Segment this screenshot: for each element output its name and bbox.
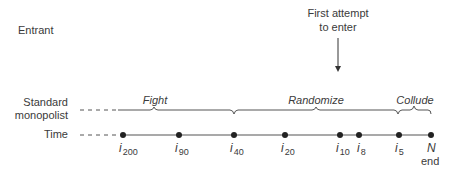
tick-label-i90: i90 bbox=[175, 141, 189, 157]
point-i200 bbox=[120, 132, 126, 138]
point-i10 bbox=[337, 132, 343, 138]
annotation-line1: First attempt bbox=[283, 7, 393, 20]
fight-brace bbox=[118, 107, 234, 114]
tick-label-i10: i10 bbox=[336, 141, 350, 157]
tick-label-i5: i5 bbox=[395, 141, 404, 157]
phase-label-randomize: Randomize bbox=[280, 94, 352, 107]
phase-label-collude: Collude bbox=[390, 94, 440, 107]
tick-label-i20: i20 bbox=[281, 141, 295, 157]
randomize-brace bbox=[234, 107, 398, 114]
entrant-label: Entrant bbox=[18, 24, 53, 37]
tick-label-i8: i8 bbox=[357, 141, 366, 157]
point-i20 bbox=[282, 132, 288, 138]
end-label: end bbox=[421, 155, 439, 168]
tick-label-N: N bbox=[427, 141, 436, 155]
point-i8 bbox=[356, 132, 362, 138]
tick-label-i200: i200 bbox=[119, 141, 138, 157]
point-i90 bbox=[176, 132, 182, 138]
monopolist-label-line1: Standard bbox=[0, 96, 68, 109]
point-i5 bbox=[396, 132, 402, 138]
point-i40 bbox=[231, 132, 237, 138]
arrow-down-icon bbox=[335, 66, 341, 72]
monopolist-label-line2: monopolist bbox=[0, 109, 68, 122]
point-N bbox=[428, 132, 434, 138]
tick-label-i40: i40 bbox=[230, 141, 244, 157]
phase-label-fight: Fight bbox=[130, 94, 180, 107]
collude-brace bbox=[398, 106, 431, 114]
time-label: Time bbox=[0, 128, 68, 141]
annotation-line2: to enter bbox=[283, 21, 393, 34]
